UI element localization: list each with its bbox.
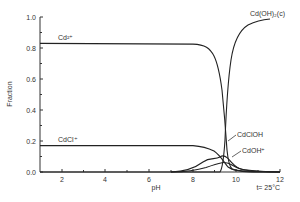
curve-labels: Cd²⁺ CdCl⁺ Cd(OH)₂(c) CdClOH CdOH⁺	[58, 10, 285, 154]
speciation-chart: 0.0 0.2 0.4 0.6 0.8 1.0 2 4 6 8 10 12 pH…	[0, 0, 300, 202]
curve-cdoh2	[40, 19, 270, 172]
y-tick-label: 0.6	[26, 76, 36, 83]
y-tick-labels: 0.0 0.2 0.4 0.6 0.8 1.0	[26, 14, 36, 176]
x-tick-label: 10	[232, 176, 240, 183]
label-cdoh: CdOH⁺	[242, 147, 265, 154]
x-tick-label: 6	[147, 176, 151, 183]
label-cdoh2: Cd(OH)₂(c)	[250, 10, 285, 18]
y-tick-label: 0.4	[26, 107, 36, 114]
x-tick-labels: 2 4 6 8 10 12	[60, 176, 284, 183]
y-axis-label: Fraction	[6, 81, 13, 106]
y-tick-label: 1.0	[26, 14, 36, 21]
label-leaders	[228, 135, 241, 157]
x-tick-label: 12	[276, 176, 284, 183]
label-cd2: Cd²⁺	[58, 34, 73, 41]
y-tick-label: 0.2	[26, 138, 36, 145]
label-cdcloh: CdClOH	[237, 131, 263, 138]
x-tick-label: 8	[191, 176, 195, 183]
x-tick-label: 2	[60, 176, 64, 183]
x-tick-label: 4	[103, 176, 107, 183]
y-tick-label: 0.0	[26, 169, 36, 176]
label-cdcl: CdCl⁺	[58, 136, 78, 143]
y-tick-label: 0.8	[26, 45, 36, 52]
x-axis-label: pH	[152, 184, 161, 192]
temperature-annotation: t= 25°C	[256, 184, 280, 191]
